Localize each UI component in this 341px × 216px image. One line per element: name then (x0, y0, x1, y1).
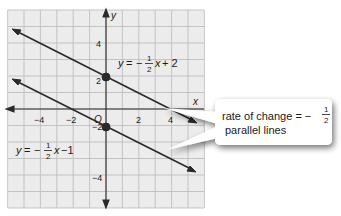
svg-text:=: = (126, 57, 132, 69)
svg-text:2: 2 (147, 65, 152, 74)
svg-text:1: 1 (147, 54, 152, 63)
svg-text:+ 2: + 2 (162, 57, 178, 69)
callout-rate-of-change: rate of change = − (222, 110, 311, 122)
svg-text:−: − (136, 57, 142, 69)
y-axis-label: y (110, 10, 117, 21)
x-tick-label: 4 (168, 115, 173, 125)
callout-frac-den: 2 (324, 116, 329, 125)
x-tick-label: −4 (34, 115, 44, 125)
y-tick-label: 2 (96, 76, 101, 86)
y-tick-label: −4 (92, 173, 102, 183)
x-axis-label: x (192, 96, 199, 107)
svg-text:2: 2 (46, 152, 51, 161)
y-intercept-point-line-1 (102, 73, 110, 81)
y-tick-label: 4 (96, 39, 101, 49)
x-tick-label: −2 (66, 115, 76, 125)
svg-text:−1: −1 (61, 144, 74, 156)
svg-text:−: − (34, 144, 40, 156)
x-tick-label: 2 (136, 115, 141, 125)
y-intercept-point-line-2 (102, 123, 110, 131)
svg-text:x: x (154, 57, 161, 69)
svg-text:1: 1 (46, 141, 51, 150)
svg-text:x: x (53, 144, 60, 156)
svg-text:=: = (24, 144, 30, 156)
graph-figure: y x O −4 −2 2 4 4 2 −2 −4 y = − 1 2 x + … (0, 0, 341, 216)
callout-frac-num: 1 (324, 105, 329, 114)
callout-parallel-lines: parallel lines (225, 124, 287, 136)
